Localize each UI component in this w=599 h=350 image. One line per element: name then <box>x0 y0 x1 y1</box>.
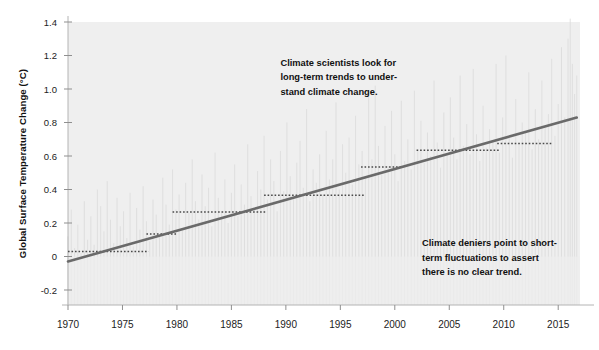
lower-band-fill <box>68 257 580 306</box>
y-tick-label: 0.2 <box>44 218 57 229</box>
y-tick-label: -0.2 <box>41 285 57 296</box>
x-tick-label: 2015 <box>547 319 570 330</box>
y-tick-label: 1.2 <box>44 50 57 61</box>
scientists-annotation-line: stand climate change. <box>280 87 377 97</box>
deniers-annotation-line: Climate deniers point to short- <box>422 238 557 248</box>
y-axis-title-text: Global Surface Temperature Change (°C) <box>17 69 28 258</box>
y-axis-tick-labels: -0.200.20.40.60.81.01.21.4 <box>41 17 57 296</box>
x-tick-label: 2005 <box>438 319 461 330</box>
y-tick-label: 1.0 <box>44 84 57 95</box>
x-tick-label: 1970 <box>57 319 80 330</box>
scientists-annotation-line: Climate scientists look for <box>280 58 396 68</box>
x-tick-label: 1975 <box>111 319 134 330</box>
y-tick-label: 0 <box>52 251 57 262</box>
y-tick-label: 0.4 <box>44 184 57 195</box>
deniers-annotation-line: there is no clear trend. <box>422 267 522 277</box>
x-tick-label: 1980 <box>166 319 189 330</box>
y-tick-label: 0.8 <box>44 117 57 128</box>
x-tick-label: 2010 <box>493 319 516 330</box>
x-tick-label: 1995 <box>329 319 352 330</box>
x-axis-tick-labels: 1970197519801985199019952000200520102015 <box>57 319 570 330</box>
scientists-annotation-line: long-term trends to under- <box>280 72 397 82</box>
x-tick-label: 1985 <box>220 319 243 330</box>
x-tick-label: 2000 <box>384 319 407 330</box>
y-axis-title: Global Surface Temperature Change (°C) <box>17 69 28 258</box>
deniers-annotation-line: term fluctuations to assert <box>422 253 539 263</box>
x-tick-label: 1990 <box>275 319 298 330</box>
temperature-chart: -0.200.20.40.60.81.01.21.4 1970197519801… <box>0 0 599 350</box>
y-tick-label: 0.6 <box>44 151 57 162</box>
chart-container: -0.200.20.40.60.81.01.21.4 1970197519801… <box>0 0 599 350</box>
y-tick-label: 1.4 <box>44 17 57 28</box>
